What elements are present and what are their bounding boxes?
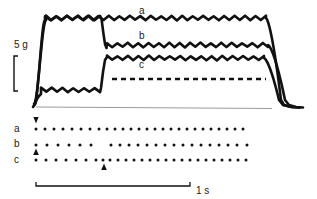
raster-dot xyxy=(182,144,185,147)
raster-dot xyxy=(62,128,65,131)
raster-dot xyxy=(164,144,167,147)
raster-dot xyxy=(173,144,176,147)
raster-dot xyxy=(149,159,152,162)
time-scale-label: 1 s xyxy=(196,186,209,196)
raster-dot xyxy=(114,128,117,131)
raster-dot xyxy=(141,159,144,162)
raster-dot xyxy=(44,128,47,131)
raster-dot xyxy=(133,159,136,162)
raster-dot xyxy=(95,159,98,162)
raster-dot xyxy=(178,128,181,131)
raster-dot xyxy=(85,159,88,162)
raster-row-label-c: c xyxy=(14,155,19,165)
raster-dot xyxy=(200,144,203,147)
raster-dot xyxy=(35,144,38,147)
raster-dot xyxy=(227,144,230,147)
raster-dot xyxy=(181,159,184,162)
raster-dot xyxy=(119,144,122,147)
raster-dot xyxy=(155,144,158,147)
vertical-scale-bar xyxy=(14,56,18,91)
vertical-scale-label: 5 g xyxy=(14,40,28,50)
raster-dot xyxy=(71,128,74,131)
raster-dot xyxy=(109,159,112,162)
raster-dot xyxy=(65,159,68,162)
raster-dot xyxy=(229,159,232,162)
raster-dot xyxy=(57,144,60,147)
trace-label-a: a xyxy=(139,6,145,16)
raster-dot xyxy=(130,128,133,131)
raster-dot xyxy=(138,128,141,131)
raster-dot xyxy=(90,144,93,147)
raster-dot xyxy=(137,144,140,147)
raster-dot xyxy=(218,144,221,147)
raster-dot xyxy=(209,144,212,147)
raster-dot xyxy=(218,128,221,131)
stimulus-up-arrowhead xyxy=(33,149,39,156)
raster-dot xyxy=(246,144,249,147)
raster-dot xyxy=(202,128,205,131)
raster-dot xyxy=(205,159,208,162)
raster-dot xyxy=(46,144,49,147)
raster-dot xyxy=(146,144,149,147)
raster-dot xyxy=(106,128,109,131)
time-scale-bar xyxy=(36,182,190,186)
raster-dot xyxy=(45,159,48,162)
raster-dot xyxy=(173,159,176,162)
raster-dot xyxy=(221,159,224,162)
raster-dot xyxy=(122,128,125,131)
raster-dot xyxy=(75,159,78,162)
raster-dot xyxy=(189,159,192,162)
raster-dot xyxy=(197,159,200,162)
raster-dot xyxy=(191,144,194,147)
raster-dot xyxy=(117,159,120,162)
raster-dot xyxy=(186,128,189,131)
trace-label-c: c xyxy=(139,60,144,70)
raster-row-label-a: a xyxy=(14,124,20,134)
raster-dot xyxy=(53,128,56,131)
trace-a xyxy=(34,16,300,108)
raster-dot xyxy=(210,128,213,131)
trace-label-b: b xyxy=(139,31,145,41)
raster-dot xyxy=(165,159,168,162)
raster-dot xyxy=(80,128,83,131)
raster-dot xyxy=(157,159,160,162)
raster-dot xyxy=(79,144,82,147)
raster-dot xyxy=(146,128,149,131)
raster-dot xyxy=(125,159,128,162)
raster-dot xyxy=(128,144,131,147)
raster-dot xyxy=(237,159,240,162)
stimulus-up-arrowhead xyxy=(101,164,107,171)
baseline-line xyxy=(36,107,272,109)
raster-dot xyxy=(35,159,38,162)
trace-b xyxy=(35,16,304,108)
recording-figure: 5 g 1 s a b c a b c xyxy=(0,0,317,199)
raster-dot xyxy=(154,128,157,131)
raster-dot xyxy=(245,159,248,162)
raster-dot xyxy=(68,144,71,147)
stimulus-down-arrowhead xyxy=(33,117,38,124)
raster-dot xyxy=(242,128,245,131)
raster-dot xyxy=(102,159,105,162)
raster-dot xyxy=(236,144,239,147)
trace-c xyxy=(33,56,299,108)
raster-dot xyxy=(55,159,58,162)
raster-dot xyxy=(226,128,229,131)
raster-dot xyxy=(110,144,113,147)
raster-row-label-b: b xyxy=(14,139,20,149)
raster-dot xyxy=(194,128,197,131)
raster-dot xyxy=(213,159,216,162)
raster-dot xyxy=(35,128,38,131)
raster-dot xyxy=(89,128,92,131)
raster-dot xyxy=(234,128,237,131)
raster-dot xyxy=(162,128,165,131)
trace-plot-canvas xyxy=(0,0,317,199)
raster-dot xyxy=(98,128,101,131)
raster-dot xyxy=(170,128,173,131)
